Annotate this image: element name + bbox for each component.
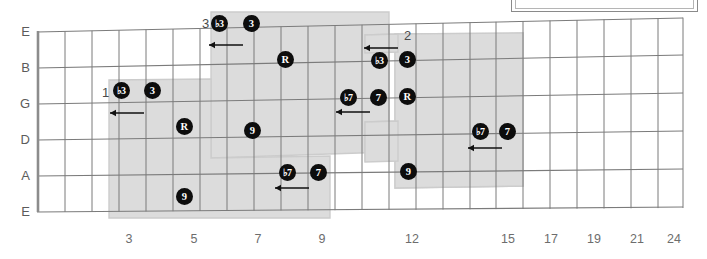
fret-number-3: 3 xyxy=(117,233,141,246)
region-label-1: 1 xyxy=(102,86,109,99)
string-label-5: E xyxy=(10,205,30,218)
note-marker: ♭3 xyxy=(113,82,130,99)
fret-number-5: 5 xyxy=(182,233,206,246)
note-marker: 3 xyxy=(399,51,416,68)
fret-number-19: 19 xyxy=(582,233,606,246)
note-marker: R xyxy=(176,118,193,135)
fret-number-15: 15 xyxy=(496,233,520,246)
string-label-3: D xyxy=(10,133,30,146)
note-marker: 9 xyxy=(176,188,193,205)
fret-number-9: 9 xyxy=(310,233,334,246)
legend-box-inner xyxy=(515,0,694,9)
note-marker: R xyxy=(277,51,294,68)
note-marker: 9 xyxy=(244,122,261,139)
note-marker: ♭3 xyxy=(211,15,228,32)
string-label-1: B xyxy=(10,61,30,74)
note-marker: 3 xyxy=(144,82,161,99)
region-label-3: 3 xyxy=(202,17,209,30)
note-marker: R xyxy=(399,88,416,105)
position-region-2-notch-lower xyxy=(365,121,398,162)
string-label-0: E xyxy=(10,25,30,38)
fret-number-24: 24 xyxy=(662,233,686,246)
note-marker: 7 xyxy=(499,123,516,140)
string-label-4: A xyxy=(10,169,30,182)
string-label-2: G xyxy=(10,97,30,110)
note-marker: ♭7 xyxy=(340,89,357,106)
note-marker: 7 xyxy=(310,164,327,181)
note-marker: 3 xyxy=(243,15,260,32)
fret-number-17: 17 xyxy=(539,233,563,246)
fret-number-21: 21 xyxy=(625,233,649,246)
fretboard-diagram: EBGDAE 3579121517192124 123 ♭33R9♭33R9♭7… xyxy=(0,0,707,259)
note-marker: ♭3 xyxy=(371,52,388,69)
note-marker: ♭7 xyxy=(279,164,296,181)
fret-number-12: 12 xyxy=(400,233,424,246)
fret-number-7: 7 xyxy=(246,233,270,246)
note-marker: 9 xyxy=(400,163,417,180)
note-marker: ♭7 xyxy=(472,123,489,140)
fretboard-canvas xyxy=(0,0,707,259)
note-marker: 7 xyxy=(370,89,387,106)
region-label-2: 2 xyxy=(404,29,411,42)
